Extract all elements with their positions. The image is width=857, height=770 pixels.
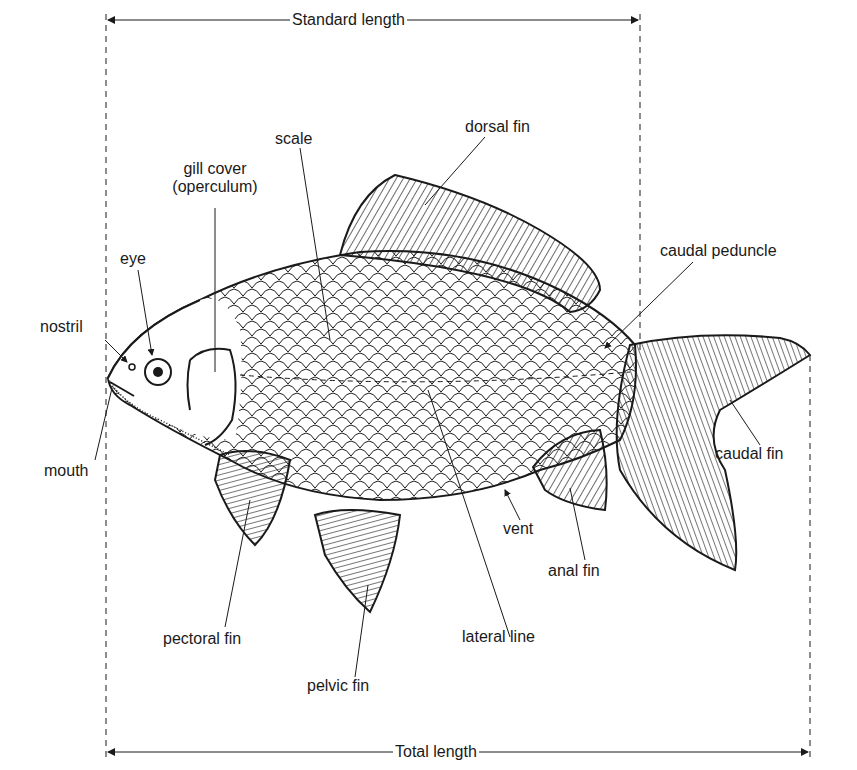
label-vent: vent xyxy=(503,520,533,538)
label-nostril: nostril xyxy=(40,318,83,336)
nostril-shape xyxy=(129,364,135,370)
label-pectoral-fin: pectoral fin xyxy=(163,630,241,648)
label-lateral-line: lateral line xyxy=(462,628,535,646)
label-caudal-peduncle: caudal peduncle xyxy=(660,242,777,260)
pectoral-fin-shape xyxy=(215,451,290,545)
label-gill-cover: gill cover (operculum) xyxy=(160,160,270,196)
label-mouth: mouth xyxy=(44,462,88,480)
standard-length-label: Standard length xyxy=(290,11,407,29)
fish-head xyxy=(108,299,242,440)
label-eye: eye xyxy=(120,250,146,268)
fish-illustration xyxy=(0,0,857,770)
label-gill-cover-line1: gill cover xyxy=(160,160,270,178)
label-dorsal-fin: dorsal fin xyxy=(465,118,530,136)
label-caudal-fin: caudal fin xyxy=(715,445,784,463)
label-gill-cover-line2: (operculum) xyxy=(160,178,270,196)
total-length-label: Total length xyxy=(393,743,479,761)
label-anal-fin: anal fin xyxy=(548,562,600,580)
label-pelvic-fin: pelvic fin xyxy=(307,677,369,695)
fish-anatomy-diagram: Standard length Total length dorsal fin … xyxy=(0,0,857,770)
pelvic-fin-shape xyxy=(315,510,400,612)
label-scale: scale xyxy=(275,130,312,148)
